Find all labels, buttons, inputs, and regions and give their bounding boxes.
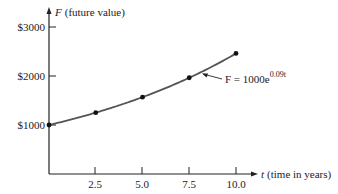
x-tick-label: 2.5	[88, 178, 102, 190]
formula-exponent: 0.09t	[270, 70, 287, 79]
data-point	[187, 75, 192, 80]
y-axis-var: F	[54, 6, 62, 18]
data-point	[93, 110, 98, 115]
y-axis-label: F(future value)	[54, 6, 125, 19]
x-tick-label: 5.0	[135, 178, 149, 190]
formula-main: F = 1000e	[225, 73, 270, 85]
y-axis-arrow-icon	[47, 7, 52, 14]
series-curve	[49, 53, 236, 125]
y-tick-label: $3000	[18, 21, 46, 33]
y-tick-label: $1000	[18, 119, 46, 131]
x-axis-arrow-icon	[251, 172, 258, 177]
x-tick-label: 10.0	[226, 178, 246, 190]
data-point	[47, 123, 52, 128]
data-points	[47, 51, 239, 127]
x-axis-var: t	[261, 168, 265, 180]
annotation-arrow-icon	[202, 74, 208, 78]
x-tick-label: 7.5	[182, 178, 196, 190]
chart-canvas: $1000 $2000 $3000 2.5 5.0 7.5 10.0 F(fut…	[0, 0, 338, 194]
y-tick-label: $2000	[18, 70, 46, 82]
curve-formula: F = 1000e0.09t	[225, 70, 287, 85]
data-point	[140, 95, 145, 100]
data-point	[234, 51, 239, 56]
y-axis-desc: (future value)	[65, 6, 125, 19]
x-axis-label: t(time in years)	[261, 168, 332, 181]
x-axis-desc: (time in years)	[267, 168, 331, 181]
